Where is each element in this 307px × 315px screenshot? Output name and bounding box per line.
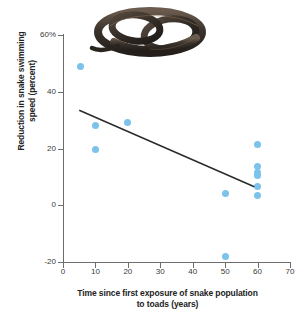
y-tick-label: 20 bbox=[47, 145, 56, 153]
data-point bbox=[222, 253, 229, 260]
scatter-plot: -200204060% 010203040506070 Reduction in… bbox=[0, 0, 307, 315]
y-tick-label: 60% bbox=[40, 31, 56, 39]
y-tick-label: -20 bbox=[44, 258, 56, 266]
x-axis-title-line1: Time since first exposure of snake popul… bbox=[77, 288, 258, 298]
data-point bbox=[77, 63, 84, 70]
y-tick-mark bbox=[58, 35, 64, 36]
data-point bbox=[92, 146, 99, 153]
y-axis-title: Reduction in snake swimming speed (perce… bbox=[16, 6, 38, 176]
data-point bbox=[124, 119, 131, 126]
y-tick-mark bbox=[58, 205, 64, 206]
x-tick-label: 10 bbox=[85, 267, 105, 276]
data-point bbox=[92, 122, 99, 129]
trend-line bbox=[79, 110, 254, 187]
figure: -200204060% 010203040506070 Reduction in… bbox=[0, 0, 307, 315]
data-point bbox=[254, 183, 261, 190]
data-point bbox=[222, 190, 229, 197]
x-axis-title: Time since first exposure of snake popul… bbox=[40, 288, 295, 310]
y-tick-label: 40 bbox=[47, 88, 56, 96]
data-point bbox=[254, 192, 261, 199]
y-axis-title-line2: speed (percent) bbox=[27, 60, 37, 122]
y-tick-mark bbox=[58, 149, 64, 150]
x-tick-label: 40 bbox=[183, 267, 203, 276]
y-tick-label: 0 bbox=[52, 201, 56, 209]
x-tick-label: 50 bbox=[215, 267, 235, 276]
x-tick-label: 0 bbox=[53, 267, 73, 276]
y-axis-title-line1: Reduction in snake swimming bbox=[16, 31, 26, 150]
x-tick-label: 20 bbox=[118, 267, 138, 276]
data-point bbox=[254, 172, 261, 179]
x-tick-label: 30 bbox=[150, 267, 170, 276]
x-tick-label: 60 bbox=[248, 267, 268, 276]
y-tick-mark bbox=[58, 92, 64, 93]
x-axis-title-line2: to toads (years) bbox=[137, 299, 199, 309]
x-tick-label: 70 bbox=[280, 267, 300, 276]
data-point bbox=[254, 141, 261, 148]
